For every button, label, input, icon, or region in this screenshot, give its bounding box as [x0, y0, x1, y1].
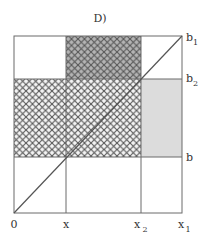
- label-b1: b 1: [186, 31, 198, 47]
- svg-text:b: b: [186, 72, 193, 85]
- region-top-middle: [66, 36, 141, 79]
- label-b: b: [186, 151, 193, 164]
- diagram: D) 0 x x 2 x 1 b 1 b 2 b: [0, 0, 208, 247]
- svg-text:1: 1: [185, 225, 190, 234]
- label-x: x: [63, 218, 70, 231]
- label-x1: x 1: [178, 218, 191, 234]
- figure-title: D): [93, 12, 106, 25]
- label-b2: b 2: [186, 72, 198, 88]
- label-x2: x 2: [134, 218, 148, 234]
- svg-text:x: x: [178, 218, 185, 231]
- svg-text:b: b: [186, 31, 193, 44]
- label-origin: 0: [11, 218, 18, 231]
- svg-text:x: x: [134, 218, 141, 231]
- svg-text:2: 2: [193, 79, 198, 88]
- region-right-gray: [141, 79, 182, 157]
- svg-text:2: 2: [142, 225, 147, 234]
- svg-text:1: 1: [193, 38, 198, 47]
